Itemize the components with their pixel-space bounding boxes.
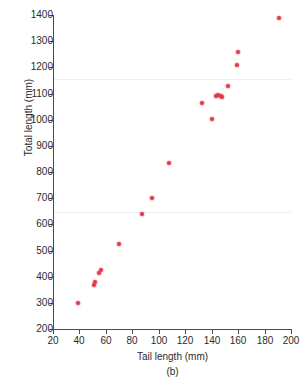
x-tick [265, 329, 266, 334]
plot-area [53, 15, 291, 329]
x-tick [106, 329, 107, 334]
x-tick-label: 120 [170, 336, 200, 346]
x-axis-line [53, 329, 292, 330]
x-tick [291, 329, 292, 334]
x-tick [159, 329, 160, 334]
x-tick-label: 40 [64, 336, 94, 346]
x-tick-label: 80 [117, 336, 147, 346]
guide-band [54, 79, 291, 80]
data-point [210, 117, 214, 121]
x-tick-label: 160 [223, 336, 253, 346]
y-tick-label: 400 [9, 272, 53, 282]
x-tick [185, 329, 186, 334]
panel-caption: (b) [53, 366, 292, 377]
y-tick-label: 200 [9, 324, 53, 334]
x-tick [212, 329, 213, 334]
x-tick [79, 329, 80, 334]
data-point [99, 268, 103, 272]
x-axis-title: Tail length (mm) [53, 351, 292, 362]
x-tick-label: 200 [276, 336, 306, 346]
y-tick-label: 300 [9, 298, 53, 308]
x-tick [238, 329, 239, 334]
y-tick-label: 1400 [9, 10, 53, 20]
y-tick-label: 500 [9, 246, 53, 256]
guide-band [54, 212, 291, 213]
scatter-plot-figure: 2003004005006007008009001000110012001300… [0, 0, 306, 381]
data-point [140, 212, 144, 216]
data-point [277, 16, 281, 20]
y-tick-label: 600 [9, 219, 53, 229]
x-tick [53, 329, 54, 334]
data-point [226, 84, 230, 88]
x-tick [132, 329, 133, 334]
y-axis-title: Total length (mm) [23, 38, 34, 198]
